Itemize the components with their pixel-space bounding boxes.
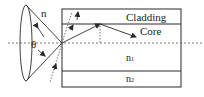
light-ray — [62, 24, 100, 43]
n2-label: n2 — [126, 73, 134, 84]
cladding-label: Cladding — [126, 11, 167, 23]
theta-label: θ — [31, 38, 36, 50]
reflected-ray — [100, 24, 136, 37]
optical-fiber-diagram: n θ Cladding Core n1 n2 — [0, 0, 204, 97]
outer-medium-label: n — [41, 7, 47, 19]
small-arrow-cladding — [77, 12, 78, 20]
small-arrow-core — [70, 25, 73, 30]
core-label: Core — [140, 25, 162, 37]
n1-label: n1 — [126, 52, 134, 63]
angle-theta-arc-lower — [38, 50, 45, 56]
angle-theta-arc — [38, 28, 44, 37]
